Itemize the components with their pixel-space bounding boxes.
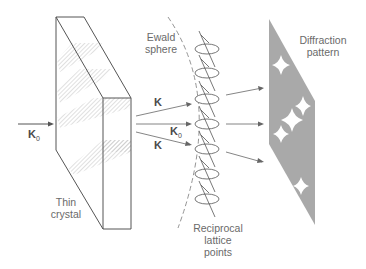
diffraction-pattern-label: Diffraction pattern <box>290 34 356 58</box>
middle-wavevector-label: K0 <box>170 125 182 142</box>
upper-wavevector-label: K <box>154 96 162 108</box>
diffracted-beam-arrows <box>226 86 264 163</box>
lower-wavevector-label: K <box>154 139 162 151</box>
scattered-beam-arrows <box>136 102 192 146</box>
reciprocal-lattice-points <box>195 31 219 217</box>
thin-crystal-label: Thin crystal <box>46 196 86 220</box>
diffraction-diagram: Ewald sphere Diffraction pattern Thin cr… <box>0 0 366 269</box>
ewald-sphere-label: Ewald sphere <box>141 31 181 55</box>
reciprocal-lattice-points-label: Reciprocal lattice points <box>189 222 247 258</box>
incident-wavevector-label: K0 <box>28 128 40 145</box>
incident-beam-arrow <box>18 122 54 127</box>
